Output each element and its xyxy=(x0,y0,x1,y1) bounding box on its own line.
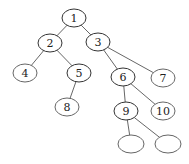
tree-node-10: 10 xyxy=(151,102,175,120)
node-label: 2 xyxy=(47,37,54,50)
tree-nodes: 12345678910 xyxy=(13,9,181,153)
node-label: 5 xyxy=(76,67,83,80)
edge-n6-n9 xyxy=(124,86,125,102)
tree-node-2: 2 xyxy=(38,34,62,52)
edge-n9-n12 xyxy=(134,118,159,138)
tree-node-8: 8 xyxy=(55,98,79,116)
node-label: 8 xyxy=(64,101,71,114)
node-label: 6 xyxy=(120,71,127,84)
edge-n9-n11 xyxy=(127,120,129,135)
node-ellipse xyxy=(118,135,144,153)
edge-n3-n6 xyxy=(104,50,118,69)
tree-node-4: 4 xyxy=(13,64,37,82)
tree-node-3: 3 xyxy=(86,33,110,51)
edge-n2-n4 xyxy=(31,51,43,66)
tree-node-empty xyxy=(155,135,181,153)
node-ellipse xyxy=(155,135,181,153)
tree-node-9: 9 xyxy=(114,102,138,120)
tree-node-1: 1 xyxy=(62,9,86,27)
node-label: 4 xyxy=(22,67,29,80)
edge-n1-n3 xyxy=(81,25,91,35)
edge-n1-n2 xyxy=(57,25,67,35)
node-label: 3 xyxy=(95,36,102,49)
edge-n5-n8 xyxy=(70,82,76,99)
node-label: 7 xyxy=(160,72,167,85)
tree-node-6: 6 xyxy=(111,68,135,86)
tree-node-5: 5 xyxy=(67,64,91,82)
tree-node-7: 7 xyxy=(151,69,175,87)
node-label: 9 xyxy=(123,105,130,118)
tree-diagram: 12345678910 xyxy=(0,0,189,164)
edge-n6-n10 xyxy=(131,84,155,105)
node-label: 10 xyxy=(156,105,170,118)
edge-n3-n7 xyxy=(108,47,154,72)
tree-node-empty xyxy=(118,135,144,153)
edge-n2-n5 xyxy=(57,50,72,65)
node-label: 1 xyxy=(71,12,78,25)
